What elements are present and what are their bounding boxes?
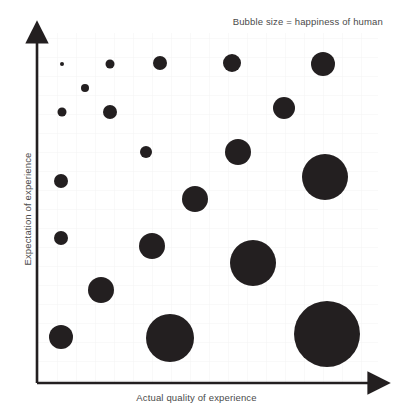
bubble-point [146,314,194,362]
bubble-point [54,174,68,188]
bubble-point [311,52,335,76]
bubble-point [153,56,167,70]
bubble-point [230,240,276,286]
bubble-point [49,325,73,349]
bubble-point [106,60,115,69]
bubble-point [182,186,208,212]
bubble-point [302,154,348,200]
bubble-point [294,301,360,367]
bubble-point [223,54,241,72]
bubble-point [140,146,152,158]
bubble-point [103,105,117,119]
chart-canvas [0,0,393,418]
bubble-point [273,97,295,119]
bubble-point [139,233,165,259]
bubble-chart: Bubble size = happiness of human Actual … [0,0,393,418]
y-axis-label: Expectation of experience [22,119,34,299]
bubble-point [88,277,114,303]
x-axis-label: Actual quality of experience [0,392,393,404]
size-legend-annotation: Bubble size = happiness of human [233,16,383,28]
bubble-point [81,84,89,92]
bubble-point [54,231,68,245]
bubble-point [60,62,64,66]
bubble-point [58,108,67,117]
bubble-point [225,139,251,165]
